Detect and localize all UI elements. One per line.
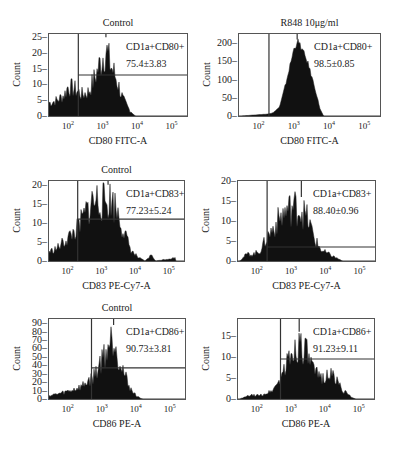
y-tick-label: 0– (25, 111, 47, 121)
y-tick-label: 25– (25, 32, 47, 42)
y-tick-label: 5– (25, 95, 47, 105)
x-tick-label: 102 (56, 403, 80, 414)
gate-label: CD1a+CD86+ (313, 323, 372, 340)
x-tick-label: 104 (124, 403, 148, 414)
y-tick-label: 10– (214, 352, 236, 362)
y-axis-title: Count (11, 201, 22, 241)
x-axis-title: CD80 FITC-A (238, 135, 381, 146)
gate-annotation: CD1a+CD80+98.5±0.85 (314, 38, 373, 72)
gate-value: 75.4±3.83 (126, 55, 185, 72)
gate-value: 88.40±0.96 (313, 202, 372, 219)
x-tick-label: 102 (56, 120, 80, 131)
y-tick-label: 15– (25, 64, 47, 74)
x-axis-title: CD80 FITC-A (48, 135, 188, 146)
x-tick-label: 105 (347, 403, 371, 414)
panel-title: R848 10μg/ml (238, 17, 381, 28)
gate-annotation: CD1a+CD80+75.4±3.83 (126, 38, 185, 72)
x-tick-label: 103 (279, 403, 303, 414)
y-tick-label: 20– (25, 180, 47, 190)
y-tick-label: 200– (215, 38, 237, 48)
x-tick-label: 102 (56, 265, 80, 276)
x-tick-label: 103 (90, 120, 114, 131)
gate-label: CD1a+CD83+ (313, 185, 372, 202)
x-tick-label: 105 (348, 265, 372, 276)
y-tick-label: 20– (214, 176, 236, 186)
gate-annotation: CD1a+CD86+90.73±3.81 (126, 323, 185, 357)
x-tick-label: 102 (246, 120, 270, 131)
y-tick-label: 5– (214, 236, 236, 246)
x-tick-label: 103 (90, 403, 114, 414)
y-tick-label: 0– (214, 394, 236, 404)
y-tick-label: 5– (25, 237, 47, 247)
y-axis-title: Count (11, 55, 22, 95)
x-tick-label: 103 (282, 120, 306, 131)
gate-value: 77.23±5.24 (126, 202, 185, 219)
x-tick-label: 105 (159, 120, 183, 131)
panel-title: Control (48, 164, 185, 175)
y-tick-label: 0– (214, 256, 236, 266)
y-tick-label: 50– (215, 93, 237, 103)
y-tick-label: 15– (214, 331, 236, 341)
y-axis-title: Count (200, 201, 211, 241)
x-axis-title: CD83 PE-Cy7-A (237, 280, 376, 291)
y-axis-title: Count (201, 55, 212, 95)
x-tick-label: 104 (317, 120, 341, 131)
y-tick-label: 15– (214, 196, 236, 206)
y-tick-label: 10– (214, 216, 236, 226)
x-tick-label: 102 (245, 403, 269, 414)
y-axis-title: Count (11, 339, 22, 379)
y-tick-label: 20– (25, 48, 47, 58)
x-tick-label: 103 (279, 265, 303, 276)
gate-label: CD1a+CD80+ (314, 38, 373, 55)
x-tick-label: 105 (158, 403, 182, 414)
y-tick-label: 0– (25, 256, 47, 266)
y-tick-label: 90– (25, 318, 47, 328)
gate-value: 91.23±9.11 (313, 340, 372, 357)
x-tick-label: 102 (245, 265, 269, 276)
y-tick-label: 5– (214, 373, 236, 383)
x-tick-label: 103 (89, 265, 113, 276)
y-tick-label: 0– (215, 111, 237, 121)
y-tick-label: 15– (25, 199, 47, 209)
gate-label: CD1a+CD80+ (126, 38, 185, 55)
x-axis-title: CD86 PE-A (48, 418, 186, 429)
x-tick-label: 104 (123, 265, 147, 276)
x-tick-label: 104 (125, 120, 149, 131)
x-axis-title: CD83 PE-Cy7-A (48, 280, 185, 291)
gate-annotation: CD1a+CD83+77.23±5.24 (126, 185, 185, 219)
panel-title: Control (48, 302, 186, 313)
y-tick-label: 100– (215, 75, 237, 85)
gate-value: 90.73±3.81 (126, 340, 185, 357)
gate-label: CD1a+CD83+ (126, 185, 185, 202)
y-tick-label: 10– (25, 218, 47, 228)
x-tick-label: 105 (352, 120, 376, 131)
gate-annotation: CD1a+CD86+91.23±9.11 (313, 323, 372, 357)
y-axis-title: Count (200, 339, 211, 379)
x-axis-title: CD86 PE-A (237, 418, 375, 429)
gate-value: 98.5±0.85 (314, 55, 373, 72)
x-tick-label: 104 (313, 265, 337, 276)
x-tick-label: 104 (313, 403, 337, 414)
y-tick-label: 10– (25, 79, 47, 89)
x-tick-label: 105 (157, 265, 181, 276)
panel-title: Control (48, 17, 188, 28)
gate-annotation: CD1a+CD83+88.40±0.96 (313, 185, 372, 219)
gate-label: CD1a+CD86+ (126, 323, 185, 340)
y-tick-label: 150– (215, 56, 237, 66)
